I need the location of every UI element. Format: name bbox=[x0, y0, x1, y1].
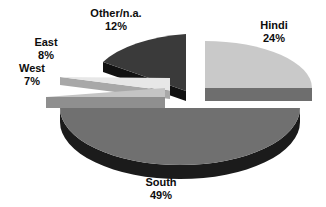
pie-slice-west[interactable] bbox=[46, 88, 165, 108]
pie-label-south-name: South bbox=[128, 176, 194, 189]
pie-label-hindi-name: Hindi bbox=[244, 19, 304, 32]
pie-label-west-name: West bbox=[6, 62, 58, 75]
pie-label-east-value: 8% bbox=[21, 49, 71, 62]
pie-label-other-name: Other/n.a. bbox=[74, 7, 158, 20]
pie-slice-south[interactable] bbox=[60, 108, 300, 179]
pie-slice-hindi[interactable] bbox=[205, 41, 312, 101]
pie-label-south: South 49% bbox=[128, 176, 194, 202]
pie-label-south-value: 49% bbox=[128, 189, 194, 202]
pie-label-west: West 7% bbox=[6, 62, 58, 88]
pie-slice-west-side bbox=[46, 97, 165, 108]
pie-label-other: Other/n.a. 12% bbox=[74, 7, 158, 33]
pie-label-east-name: East bbox=[21, 36, 71, 49]
pie-label-east: East 8% bbox=[21, 36, 71, 62]
pie-slice-hindi-side bbox=[205, 88, 312, 101]
pie-label-other-value: 12% bbox=[74, 20, 158, 33]
pie-label-hindi-value: 24% bbox=[244, 32, 304, 45]
pie-label-west-value: 7% bbox=[6, 75, 58, 88]
pie-slice-hindi-top bbox=[205, 41, 312, 88]
pie-label-hindi: Hindi 24% bbox=[244, 19, 304, 45]
pie-chart: Other/n.a. 12% Hindi 24% East 8% West 7%… bbox=[0, 0, 326, 207]
